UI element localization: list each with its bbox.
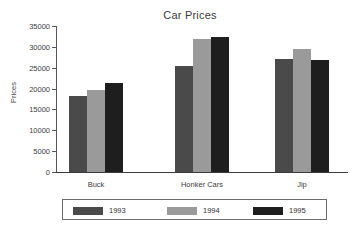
legend-label-1994: 1994 xyxy=(203,206,220,215)
y-tick-label: 15000 xyxy=(4,105,50,114)
y-tick-label: 35000 xyxy=(4,22,50,31)
y-tick-mark xyxy=(52,130,56,131)
y-tick-label: 25000 xyxy=(4,63,50,72)
legend-entry-1995[interactable]: 1995 xyxy=(253,205,306,216)
bar-buck-1994 xyxy=(87,90,105,172)
x-axis-line xyxy=(56,172,348,173)
legend-swatch-1993 xyxy=(73,207,103,215)
y-tick-mark xyxy=(52,68,56,69)
legend-swatch-1994 xyxy=(167,207,197,215)
y-tick-mark xyxy=(52,89,56,90)
bar-jip-1994 xyxy=(293,49,311,172)
y-axis-line xyxy=(56,26,57,172)
bar-chart: Car Prices Prices 0500010000150002000025… xyxy=(0,0,356,234)
bar-honker-cars-1995 xyxy=(211,37,229,172)
bar-honker-cars-1994 xyxy=(193,39,211,172)
plot-area: 05000100001500020000250003000035000 xyxy=(56,26,348,172)
chart-title: Car Prices xyxy=(120,9,260,21)
y-tick-label: 0 xyxy=(4,168,50,177)
bar-buck-1993 xyxy=(69,96,87,172)
legend-label-1993: 1993 xyxy=(109,206,126,215)
bar-honker-cars-1993 xyxy=(175,66,193,172)
y-tick-mark xyxy=(52,109,56,110)
category-label-buck: Buck xyxy=(88,180,105,189)
y-tick-label: 5000 xyxy=(4,147,50,156)
scan-artifact xyxy=(3,226,63,231)
legend-label-1995: 1995 xyxy=(289,206,306,215)
legend-swatch-1995 xyxy=(253,207,283,215)
y-tick-mark xyxy=(52,47,56,48)
category-label-jip: Jip xyxy=(297,180,307,189)
legend: 199319941995 xyxy=(62,199,327,220)
bar-jip-1995 xyxy=(311,60,329,172)
bar-jip-1993 xyxy=(275,59,293,172)
y-tick-label: 20000 xyxy=(4,84,50,93)
y-tick-mark xyxy=(52,151,56,152)
y-tick-mark xyxy=(52,172,56,173)
y-tick-mark xyxy=(52,26,56,27)
y-tick-label: 10000 xyxy=(4,126,50,135)
legend-entry-1994[interactable]: 1994 xyxy=(167,205,220,216)
category-label-honker-cars: Honker Cars xyxy=(181,180,223,189)
legend-entry-1993[interactable]: 1993 xyxy=(73,205,126,216)
bar-buck-1995 xyxy=(105,83,123,172)
y-tick-label: 30000 xyxy=(4,42,50,51)
